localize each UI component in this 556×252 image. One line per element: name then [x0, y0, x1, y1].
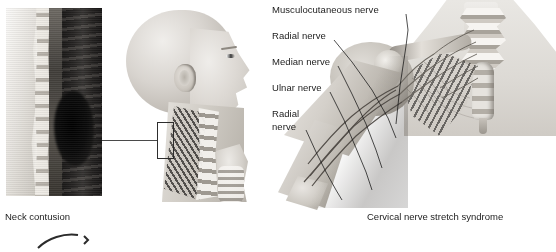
neck-mri-panel [6, 8, 102, 196]
caption-neck-contusion: Neck contusion [5, 211, 70, 223]
nerve-root-c7 [438, 54, 477, 76]
lateral-head-neck-panel [118, 6, 266, 202]
label-radial-nerve-lower-line1: Radial [272, 108, 299, 120]
nerve-root-t1 [442, 78, 478, 98]
label-musculocutaneous-nerve: Musculocutaneous nerve [272, 4, 379, 16]
label-median-nerve: Median nerve [272, 56, 330, 68]
nerve-root-c8 [440, 66, 478, 88]
label-radial-nerve-upper: Radial nerve [272, 30, 326, 42]
median-nerve-path [310, 94, 400, 176]
contusion-callout-box [157, 122, 174, 159]
ear-inner-detail [179, 70, 190, 86]
label-ulnar-nerve: Ulnar nerve [272, 82, 322, 94]
ulnar-nerve-path [312, 102, 402, 186]
medical-illustration-figure: Musculocutaneous nerve Radial nerve Medi… [0, 0, 556, 252]
eye [226, 54, 235, 58]
label-radial-nerve-lower-line2: nerve [272, 121, 296, 133]
nerve-root-c6 [436, 42, 476, 64]
trachea [218, 166, 244, 202]
vertebral-bodies [35, 8, 50, 196]
contusion-hematoma [54, 91, 94, 166]
cropped-figure-artifact [36, 232, 102, 250]
nerve-root-c5 [434, 30, 474, 54]
caption-cervical-nerve-stretch-syndrome: Cervical nerve stretch syndrome [367, 211, 503, 223]
